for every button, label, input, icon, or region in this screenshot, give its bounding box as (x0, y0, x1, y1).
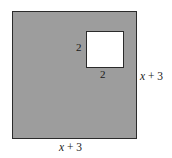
inner-square-left-dimension-label: 2 (76, 42, 82, 53)
outer-bottom-expression-rest: + 3 (64, 141, 82, 153)
geometry-figure: 2 2 x + 3 x + 3 (0, 0, 172, 158)
outer-right-expression-rest: + 3 (145, 70, 163, 82)
inner-square-bottom-dimension-label: 2 (100, 69, 106, 80)
outer-square-bottom-dimension-label: x + 3 (59, 142, 82, 154)
outer-square-right-dimension-label: x + 3 (140, 71, 163, 83)
inner-square (86, 31, 124, 68)
